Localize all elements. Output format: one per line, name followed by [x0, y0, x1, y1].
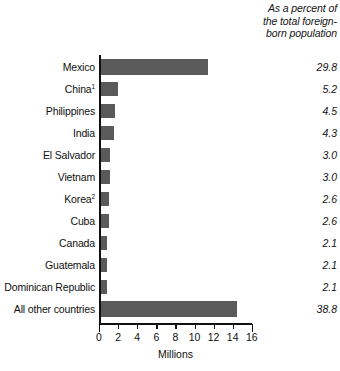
category-label-el-salvador: El Salvador	[0, 144, 95, 166]
category-label-vietnam: Vietnam	[0, 166, 95, 188]
chart-row: India4.3	[0, 122, 340, 144]
category-label-dominican-republic: Dominican Republic	[0, 276, 95, 298]
chart-row: Korea22.6	[0, 188, 340, 210]
bar-mexico	[99, 59, 208, 75]
x-axis-title: Millions	[99, 348, 252, 360]
bar-china	[99, 82, 118, 96]
plot-area: Mexico29.8China15.2Philippines4.5India4.…	[0, 55, 340, 323]
chart-row: Guatemala2.1	[0, 254, 340, 276]
percent-header-line-1: As a percent of	[229, 2, 337, 15]
footnote-marker: 2	[92, 193, 95, 200]
percent-value: 2.6	[285, 210, 337, 232]
footnote-marker: 1	[92, 83, 95, 90]
y-axis-line	[99, 55, 101, 323]
percent-value: 2.1	[285, 254, 337, 276]
category-label-all-other-countries: All other countries	[0, 298, 95, 320]
x-axis-tick	[233, 324, 234, 329]
chart-row: China15.2	[0, 78, 340, 100]
x-axis-tick	[156, 324, 157, 329]
category-label-china: China1	[0, 78, 95, 100]
chart-row: All other countries38.8	[0, 298, 340, 320]
chart-row: El Salvador3.0	[0, 144, 340, 166]
x-axis-tick	[137, 324, 138, 329]
x-axis-tick	[118, 324, 119, 329]
percent-value: 4.3	[285, 122, 337, 144]
category-label-india: India	[0, 122, 95, 144]
percent-header-line-3: born population	[229, 27, 337, 40]
chart-row: Dominican Republic2.1	[0, 276, 340, 298]
category-label-cuba: Cuba	[0, 210, 95, 232]
percent-value: 2.1	[285, 232, 337, 254]
percent-value: 29.8	[285, 56, 337, 78]
chart-row: Philippines4.5	[0, 100, 340, 122]
x-axis-tick	[175, 324, 176, 329]
x-axis-tick	[195, 324, 196, 329]
bar-india	[99, 126, 114, 140]
chart-row: Vietnam3.0	[0, 166, 340, 188]
foreign-born-population-bar-chart: As a percent of the total foreign- born …	[0, 0, 340, 371]
x-axis-tick-label: 16	[240, 331, 264, 343]
percent-value: 3.0	[285, 166, 337, 188]
percent-value: 2.1	[285, 276, 337, 298]
category-label-canada: Canada	[0, 232, 95, 254]
category-label-philippines: Philippines	[0, 100, 95, 122]
percent-value: 2.6	[285, 188, 337, 210]
category-label-guatemala: Guatemala	[0, 254, 95, 276]
percent-header-line-2: the total foreign-	[229, 15, 337, 28]
bar-all-other-countries	[99, 301, 237, 317]
percent-value: 4.5	[285, 100, 337, 122]
category-label-korea: Korea2	[0, 188, 95, 210]
x-axis-tick	[214, 324, 215, 329]
bar-philippines	[99, 104, 115, 118]
chart-row: Canada2.1	[0, 232, 340, 254]
percent-value: 3.0	[285, 144, 337, 166]
percent-value: 38.8	[285, 298, 337, 320]
category-label-mexico: Mexico	[0, 56, 95, 78]
chart-row: Mexico29.8	[0, 56, 340, 78]
percent-column-header: As a percent of the total foreign- born …	[229, 2, 337, 40]
chart-row: Cuba2.6	[0, 210, 340, 232]
percent-value: 5.2	[285, 78, 337, 100]
